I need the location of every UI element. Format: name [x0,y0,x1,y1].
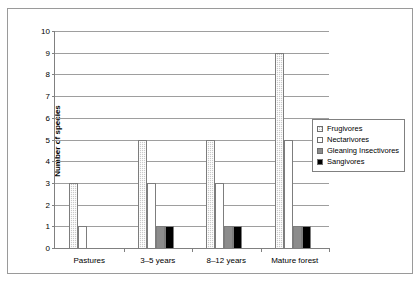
y-tick-label: 5 [46,135,50,144]
bar-mature-forest-gleaning-insectivores [293,226,302,248]
legend-swatch-frugivores [317,126,323,132]
y-tick-label: 0 [46,244,50,253]
y-tick-label: 4 [46,157,50,166]
bar-3-5-years-frugivores [138,140,147,249]
legend-item-frugivores: Frugivores [317,123,399,134]
bar-3-5-years-nectarivores [147,183,156,248]
chart-legend: FrugivoresNectarivoresGleaning Insectivo… [312,119,405,172]
bar-mature-forest-sangivores [302,226,311,248]
bar-3-5-years-gleaning-insectivores [156,226,165,248]
y-tick-label: 1 [46,222,50,231]
y-tick-label: 8 [46,70,50,79]
y-tick-label: 7 [46,92,50,101]
chart-frame: Number of species 012345678910 Pastures3… [7,8,413,274]
y-tick-label: 9 [46,48,50,57]
x-tick-mark [192,248,193,252]
legend-label-nectarivores: Nectarivores [327,136,369,144]
x-tick-mark [124,248,125,252]
bar-mature-forest-nectarivores [284,140,293,249]
x-tick-label-mature-forest: Mature forest [271,256,318,265]
legend-label-sangivores: Sangivores [327,158,365,166]
y-tick-mark [52,248,55,249]
bar-8-12-years-frugivores [206,140,215,249]
x-tick-mark [329,248,330,252]
bar-mature-forest-frugivores [275,53,284,248]
y-tick-label: 3 [46,178,50,187]
legend-swatch-sangivores [317,159,323,165]
plot-area: 012345678910 Pastures3–5 years8–12 years… [54,31,329,249]
bar-group-3-5-years: 3–5 years [124,31,193,248]
y-tick-label: 6 [46,113,50,122]
bar-8-12-years-nectarivores [215,183,224,248]
x-tick-label-3-5-years: 3–5 years [140,256,175,265]
legend-swatch-gleaning-insectivores [317,148,323,154]
x-tick-label-8-12-years: 8–12 years [206,256,246,265]
x-tick-mark [261,248,262,252]
bar-8-12-years-sangivores [233,226,242,248]
legend-swatch-nectarivores [317,137,323,143]
y-tick-label: 2 [46,200,50,209]
legend-item-nectarivores: Nectarivores [317,134,399,145]
legend-item-gleaning-insectivores: Gleaning Insectivores [317,145,399,156]
legend-label-gleaning-insectivores: Gleaning Insectivores [327,147,399,155]
bar-pastures-frugivores [69,183,78,248]
bar-3-5-years-sangivores [165,226,174,248]
legend-label-frugivores: Frugivores [327,125,362,133]
y-tick-label: 10 [41,27,50,36]
bar-group-8-12-years: 8–12 years [192,31,261,248]
bar-pastures-nectarivores [78,226,87,248]
bar-group-pastures: Pastures [55,31,124,248]
legend-item-sangivores: Sangivores [317,156,399,167]
bar-8-12-years-gleaning-insectivores [224,226,233,248]
x-tick-label-pastures: Pastures [73,256,105,265]
